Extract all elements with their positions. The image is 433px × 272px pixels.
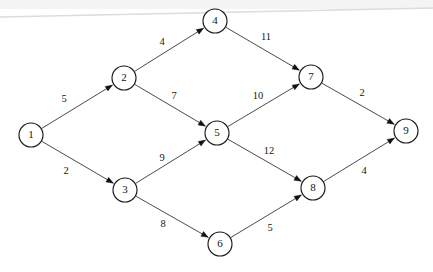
edge-line — [135, 84, 206, 126]
node-label: 5 — [214, 126, 220, 138]
nodes-layer: 123456789 — [19, 9, 418, 256]
edge-arrowhead-icon — [198, 140, 205, 146]
node-label: 1 — [28, 128, 34, 140]
scan-smudge-top — [0, 0, 433, 9]
node-label: 4 — [212, 14, 218, 26]
edge-line — [136, 140, 206, 183]
edge-weight-label: 2 — [63, 165, 68, 176]
edge-line — [42, 85, 113, 128]
edge-arrowhead-icon — [294, 175, 301, 181]
edge-weight-label: 2 — [359, 87, 364, 98]
graph-node-7[interactable]: 7 — [299, 65, 323, 89]
graph-edge — [136, 196, 208, 237]
node-label: 8 — [310, 181, 316, 193]
graph-edge — [322, 83, 394, 124]
graph-node-5[interactable]: 5 — [205, 121, 229, 145]
edge-line — [135, 28, 204, 71]
graph-node-1[interactable]: 1 — [19, 123, 43, 147]
edge-arrowhead-icon — [106, 177, 113, 183]
edge-weight-label: 10 — [253, 90, 264, 101]
graph-edge — [135, 84, 206, 126]
edge-line — [228, 84, 300, 127]
edge-arrowhead-icon — [292, 64, 299, 70]
edge-weight-label: 4 — [159, 36, 165, 47]
graph-node-2[interactable]: 2 — [112, 66, 136, 90]
graph-edge — [136, 140, 206, 183]
edge-arrowhead-icon — [105, 85, 112, 91]
node-label: 7 — [308, 70, 314, 82]
graph-diagram: 123456789 524798111012524 — [0, 0, 433, 272]
node-label: 2 — [121, 71, 127, 83]
graph-node-3[interactable]: 3 — [113, 178, 137, 202]
graph-edge — [135, 28, 204, 71]
node-label: 6 — [217, 237, 223, 249]
node-label: 3 — [122, 183, 128, 195]
edge-line — [42, 141, 114, 183]
edge-weight-label: 8 — [160, 218, 165, 229]
edge-arrowhead-icon — [387, 119, 394, 125]
edge-weight-label: 9 — [159, 152, 164, 163]
graph-node-8[interactable]: 8 — [301, 176, 325, 200]
graph-edge — [42, 141, 114, 183]
edge-weight-label: 12 — [264, 145, 275, 156]
graph-node-9[interactable]: 9 — [394, 119, 418, 143]
edge-arrowhead-icon — [294, 195, 301, 201]
edge-arrowhead-icon — [198, 120, 205, 126]
graph-edge — [42, 85, 113, 128]
edge-line — [231, 195, 302, 238]
edge-weight-label: 4 — [361, 165, 367, 176]
edge-arrowhead-icon — [201, 232, 208, 238]
graph-node-6[interactable]: 6 — [208, 232, 232, 256]
graph-edge — [324, 138, 395, 181]
edge-line — [136, 196, 208, 237]
edge-weight-label: 11 — [261, 31, 271, 42]
edge-weight-label: 7 — [171, 90, 176, 101]
edge-arrowhead-icon — [196, 28, 203, 34]
graph-node-4[interactable]: 4 — [203, 9, 227, 33]
graph-edge — [231, 195, 302, 238]
edge-arrowhead-icon — [387, 138, 394, 144]
edge-line — [324, 138, 395, 181]
edge-arrowhead-icon — [292, 84, 299, 90]
edge-line — [322, 83, 394, 124]
graph-edge — [228, 84, 300, 127]
graph-canvas: 123456789 524798111012524 — [0, 0, 433, 272]
edge-weight-label: 5 — [267, 222, 272, 233]
edge-weight-label: 5 — [61, 93, 66, 104]
node-label: 9 — [403, 124, 409, 136]
